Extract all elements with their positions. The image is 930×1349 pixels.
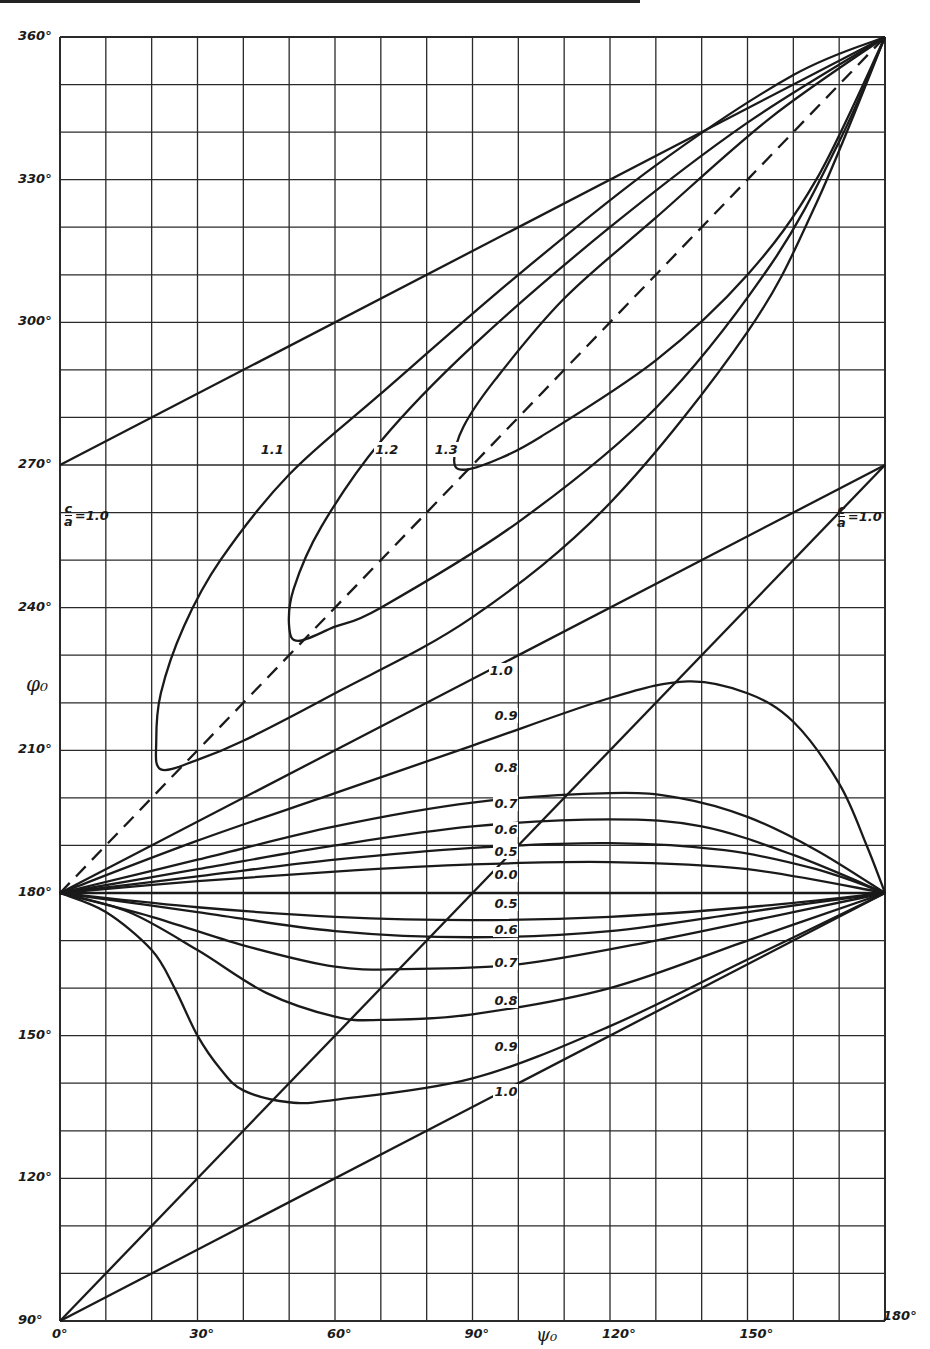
ca-label-right: ca =1.0 <box>837 504 882 529</box>
x-tick-label: 150° <box>740 1326 774 1341</box>
x-tick-label: 180° <box>883 1308 917 1323</box>
y-tick-label: 360° <box>18 28 52 43</box>
curve-label: 0.8 <box>493 760 518 775</box>
y-tick-label: 270° <box>18 456 52 471</box>
curve-label: 1.3 <box>434 442 459 457</box>
curve-label: 0.6 <box>493 822 518 837</box>
curve-label: 0.5 <box>493 844 518 859</box>
x-tick-label: 30° <box>190 1326 215 1341</box>
curve-label: 0.9 <box>493 708 518 723</box>
curve-label: 0.0 <box>493 867 518 882</box>
x-tick-label: 0° <box>52 1326 68 1341</box>
y-tick-label: 180° <box>18 884 52 899</box>
y-tick-label: 210° <box>18 741 52 756</box>
curve-label: 0.6 <box>493 922 518 937</box>
phase-chart-plot <box>0 0 930 1349</box>
curve-label: 1.1 <box>260 442 285 457</box>
curve-1.2 <box>289 37 885 641</box>
y-tick-label: 240° <box>18 599 52 614</box>
y-tick-label: 300° <box>18 313 52 328</box>
x-axis-title: ψ₀ <box>536 1324 557 1345</box>
y-axis-title: φ₀ <box>26 672 48 696</box>
curve-label: 0.8 <box>493 993 518 1008</box>
x-tick-label: 120° <box>602 1326 636 1341</box>
y-tick-label: 120° <box>18 1169 52 1184</box>
curve-1.1 <box>156 37 885 770</box>
curve-label: 0.7 <box>493 955 518 970</box>
y-tick-label: 330° <box>18 171 52 186</box>
curve-label: 1.2 <box>374 442 399 457</box>
x-tick-label: 90° <box>465 1326 490 1341</box>
y-tick-label: 150° <box>18 1027 52 1042</box>
ca-label-left: ca =1.0 <box>64 503 109 528</box>
curve-label: 0.5 <box>493 896 518 911</box>
x-tick-label: 60° <box>327 1326 352 1341</box>
y-tick-label: 90° <box>18 1312 43 1327</box>
curve-label: 1.0 <box>493 1084 518 1099</box>
curve-label: 0.9 <box>493 1039 518 1054</box>
curve-label: 1.0 <box>489 663 514 678</box>
curve-label: 0.7 <box>493 796 518 811</box>
